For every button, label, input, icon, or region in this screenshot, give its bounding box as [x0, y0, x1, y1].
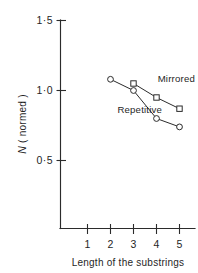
data-point-repetitive-3 [131, 88, 137, 94]
y-tick-label-1-0: 1·0 [37, 84, 53, 96]
x-tick-label-5: 5 [176, 238, 182, 250]
chart-svg: 1·5 1·0 0·5 N ( normed ) 1 2 3 4 5 Lengt… [0, 0, 198, 273]
x-axis-title: Length of the substrings [72, 257, 185, 268]
data-point-repetitive-4 [154, 116, 160, 122]
y-axis-title: N ( normed ) [16, 94, 28, 154]
y-axis-title-symbol: N [16, 146, 28, 154]
x-tick-label-1: 1 [84, 238, 90, 250]
data-point-mirrored-5 [177, 106, 182, 111]
y-tick-label-0-5: 0·5 [37, 154, 53, 166]
chart-background [0, 0, 198, 273]
y-axis-title-unit: ( normed ) [17, 94, 28, 146]
x-tick-label-2: 2 [107, 238, 113, 250]
data-point-repetitive-2 [108, 76, 114, 82]
data-point-mirrored-4 [154, 95, 159, 100]
data-point-repetitive-5 [177, 124, 183, 130]
data-point-mirrored-3 [131, 81, 136, 86]
svg-text:N ( normed ): N ( normed ) [16, 94, 28, 154]
y-tick-label-1-5: 1·5 [37, 14, 53, 26]
series-label-repetitive: Repetitive [117, 104, 162, 115]
x-tick-label-4: 4 [153, 238, 159, 250]
series-label-mirrored: Mirrored [158, 73, 195, 84]
x-tick-label-3: 3 [130, 238, 136, 250]
chart-figure: 1·5 1·0 0·5 N ( normed ) 1 2 3 4 5 Lengt… [0, 0, 198, 273]
